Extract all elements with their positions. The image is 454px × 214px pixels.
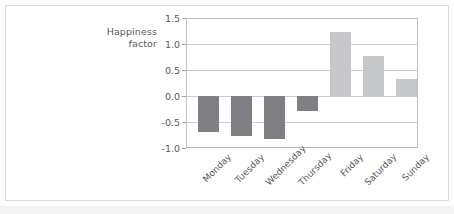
- bar-tuesday[interactable]: [231, 96, 252, 136]
- bar-wednesday[interactable]: [264, 96, 285, 139]
- bar-series: [187, 18, 417, 148]
- bar-monday[interactable]: [198, 96, 219, 132]
- y-tick-label-3: 0.5: [144, 65, 180, 76]
- x-tick-label-wednesday: Wednesday: [264, 152, 299, 187]
- x-tick-label-saturday: Saturday: [363, 152, 398, 187]
- y-tick-label-2: 1.0: [144, 39, 180, 50]
- x-tick-label-tuesday: Tuesday: [231, 152, 266, 187]
- y-tick-label-1: 1.5: [144, 13, 180, 24]
- x-tick-label-friday: Friday: [330, 152, 365, 187]
- bar-thursday[interactable]: [297, 96, 318, 111]
- chart-figure: Happiness factor 1.5 1.0 0.5 0.0 -0.5 -1…: [0, 0, 454, 214]
- bar-friday[interactable]: [330, 32, 351, 96]
- bar-saturday[interactable]: [363, 56, 384, 96]
- plot-area: [186, 18, 418, 148]
- y-tick-label-6: -1.0: [144, 143, 180, 154]
- x-tick-label-thursday: Thursday: [297, 152, 332, 187]
- y-tick-label-5: -0.5: [144, 117, 180, 128]
- y-axis-title-line1: Happiness: [75, 26, 157, 38]
- x-tick-label-monday: Monday: [198, 152, 233, 187]
- y-tick-mark-6: [182, 148, 186, 149]
- x-axis-labels: Monday Tuesday Wednesday Thursday Friday…: [186, 150, 418, 208]
- bar-sunday[interactable]: [396, 79, 417, 96]
- y-tick-label-4: 0.0: [144, 91, 180, 102]
